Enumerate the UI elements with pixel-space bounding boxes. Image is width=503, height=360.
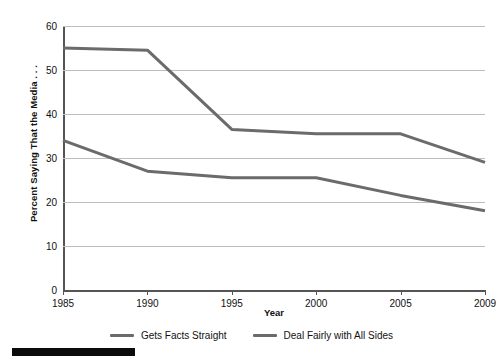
series-line-deal-fairly-with-all-sides bbox=[63, 48, 485, 162]
x-axis-title: Year bbox=[63, 307, 485, 318]
plot-area: 0102030405060 198519901995200020052009 bbox=[63, 26, 485, 290]
y-tick-label-0: 0 bbox=[51, 285, 57, 296]
y-tick-label-40: 40 bbox=[46, 109, 57, 120]
x-tick-mark-1995 bbox=[232, 290, 233, 295]
x-tick-mark-2009 bbox=[485, 290, 486, 295]
y-tick-label-30: 30 bbox=[46, 153, 57, 164]
legend-item-deal-fairly-with-all-sides[interactable]: Deal Fairly with All Sides bbox=[253, 330, 393, 341]
x-tick-mark-2005 bbox=[401, 290, 402, 295]
footer-black-bar bbox=[12, 348, 135, 356]
x-tick-mark-1985 bbox=[63, 290, 64, 295]
series-lines bbox=[63, 26, 485, 290]
legend-label-deal-fairly-with-all-sides: Deal Fairly with All Sides bbox=[284, 330, 393, 341]
legend-swatch-deal-fairly-with-all-sides bbox=[253, 334, 277, 337]
y-tick-label-10: 10 bbox=[46, 241, 57, 252]
line-chart: Percent Saying That the Media . . . 0102… bbox=[0, 0, 503, 360]
y-tick-label-20: 20 bbox=[46, 197, 57, 208]
y-tick-label-60: 60 bbox=[46, 21, 57, 32]
y-tick-label-50: 50 bbox=[46, 65, 57, 76]
x-tick-mark-1990 bbox=[147, 290, 148, 295]
x-tick-mark-2000 bbox=[316, 290, 317, 295]
series-line-gets-facts-straight bbox=[63, 140, 485, 210]
legend-label-gets-facts-straight: Gets Facts Straight bbox=[141, 330, 227, 341]
legend-item-gets-facts-straight[interactable]: Gets Facts Straight bbox=[110, 330, 227, 341]
gridline-0 bbox=[63, 290, 485, 292]
legend: Gets Facts StraightDeal Fairly with All … bbox=[0, 330, 503, 341]
legend-swatch-gets-facts-straight bbox=[110, 334, 134, 337]
y-axis-title: Percent Saying That the Media . . . bbox=[28, 29, 39, 259]
